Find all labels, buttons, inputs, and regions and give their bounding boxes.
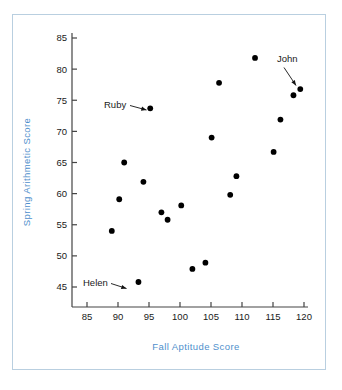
annotation-label: Helen [83, 277, 108, 288]
data-point [141, 179, 147, 185]
data-point [271, 149, 277, 155]
y-axis: 455055606570758085 [56, 32, 77, 307]
annotations-group: RubyHelenJohn [83, 53, 298, 289]
y-axis-tick-label: 50 [56, 250, 67, 261]
y-axis-tick-label: 55 [56, 219, 67, 230]
x-axis-tick-label: 115 [265, 311, 280, 322]
y-axis-title: Spring Arithmetic Score [21, 118, 32, 226]
annotation-label: John [277, 53, 298, 64]
data-point [278, 117, 284, 123]
y-axis-tick-label: 45 [56, 281, 67, 292]
data-point [216, 80, 222, 86]
data-point [252, 55, 258, 61]
data-point [147, 105, 153, 111]
x-axis-tick-label: 110 [234, 311, 249, 322]
annotation-arrow-head [141, 107, 147, 111]
x-axis-tick-label: 105 [203, 311, 219, 322]
x-axis: 859095100105110115120 [72, 302, 312, 322]
data-point [209, 135, 215, 141]
y-axis-tick-label: 80 [56, 64, 67, 75]
data-point [109, 228, 115, 234]
data-point [203, 260, 209, 266]
point-annotation: Ruby [104, 99, 147, 111]
y-axis-tick-label: 75 [56, 95, 67, 106]
data-point [297, 86, 303, 92]
data-point [227, 192, 233, 198]
data-point [116, 196, 122, 202]
x-axis-tick-label: 120 [296, 311, 312, 322]
point-annotation: Helen [83, 277, 127, 289]
x-axis-tick-label: 85 [82, 311, 93, 322]
x-axis-tick-label: 100 [172, 311, 188, 322]
x-axis-title: Fall Aptitude Score [152, 341, 239, 352]
data-point [178, 203, 184, 209]
y-axis-tick-label: 65 [56, 157, 67, 168]
x-axis-tick-label: 90 [113, 311, 124, 322]
data-point [234, 173, 240, 179]
data-points-group [109, 55, 303, 285]
point-annotation: John [277, 53, 298, 86]
scatter-plot-figure: 455055606570758085 859095100105110115120… [0, 0, 342, 390]
annotation-label: Ruby [104, 99, 126, 110]
y-axis-tick-label: 70 [56, 126, 67, 137]
data-point [121, 160, 127, 166]
data-point [291, 92, 297, 98]
annotation-arrow-head [291, 80, 296, 85]
data-point [136, 279, 142, 285]
x-axis-tick-label: 95 [144, 311, 155, 322]
y-axis-tick-label: 85 [56, 32, 67, 43]
data-point [159, 209, 165, 215]
scatter-plot-canvas: 455055606570758085 859095100105110115120… [0, 0, 342, 390]
y-axis-tick-label: 60 [56, 188, 67, 199]
annotation-arrow-head [121, 285, 127, 289]
data-point [190, 266, 196, 272]
data-point [165, 217, 171, 223]
